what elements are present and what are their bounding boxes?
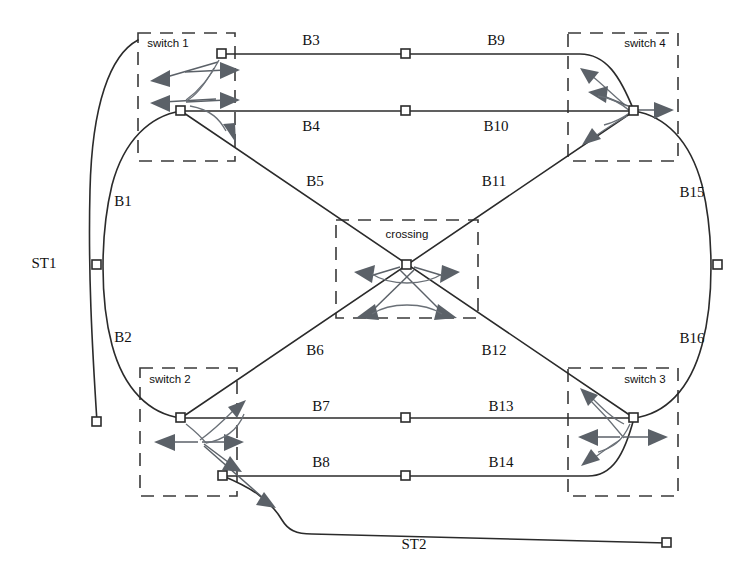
node-b1-b2[interactable]: [92, 260, 101, 269]
route-arrows-switch1: [150, 60, 240, 143]
route-arrow-sw2-down-right-2: [204, 446, 262, 497]
block-label-b7: B7: [312, 398, 330, 414]
region-label-crossing: crossing: [386, 228, 429, 240]
node-b15-b16[interactable]: [713, 260, 722, 269]
route-arrow-head-crossing-up-right: [440, 265, 460, 283]
node-sw3[interactable]: [629, 413, 638, 422]
route-arrow-head-sw3-left: [578, 429, 598, 446]
node-sw2-top[interactable]: [176, 413, 185, 422]
track-layout-canvas: switch 1 switch 4 crossing switch 2 swit…: [0, 0, 741, 581]
node-b4-b10[interactable]: [401, 106, 410, 115]
block-label-b10: B10: [483, 118, 508, 134]
node-sw2-bottom[interactable]: [218, 471, 227, 480]
block-label-b6: B6: [306, 342, 324, 358]
route-arrow-crossing-down-right: [400, 270, 438, 308]
node-b8-b14[interactable]: [401, 471, 410, 480]
block-label-b13: B13: [488, 398, 513, 414]
block-label-b14: B14: [488, 454, 514, 470]
block-label-b5: B5: [306, 173, 324, 189]
track-st1: [89, 40, 138, 422]
track-st2: [223, 476, 667, 543]
block-label-b4: B4: [302, 118, 320, 134]
route-curve-crossing-bottom: [372, 305, 442, 314]
node-st1-end[interactable]: [92, 417, 101, 426]
track-b8-b14: [223, 418, 634, 476]
node-sw4[interactable]: [629, 106, 638, 115]
route-arrow-sw1-lower-diag: [190, 106, 226, 131]
node-b3-b9[interactable]: [401, 49, 410, 58]
route-arrow-head-sw3-up-left: [580, 388, 598, 406]
route-arrow-head-sw1-mid-left: [150, 95, 170, 112]
route-arrow-head-sw4-mid-left: [588, 86, 608, 103]
route-arrow-head-sw1-mid-right: [220, 92, 240, 109]
region-labels: switch 1 switch 4 crossing switch 2 swit…: [147, 37, 666, 385]
node-sw1-bottom[interactable]: [176, 106, 185, 115]
route-arrow-head-sw3-right: [648, 429, 668, 446]
route-arrows-switch3: [578, 388, 668, 466]
route-arrows-crossing: [354, 265, 460, 320]
region-label-switch1: switch 1: [147, 37, 189, 49]
block-label-b8: B8: [312, 454, 330, 470]
route-arrow-head-sw2-right: [224, 434, 244, 451]
route-arrows-switch4: [580, 68, 674, 145]
node-crossing[interactable]: [402, 260, 411, 269]
block-label-b1: B1: [114, 193, 132, 209]
node-st2-end[interactable]: [662, 538, 671, 547]
region-label-switch2: switch 2: [149, 373, 191, 385]
route-arrow-head-sw2-left: [154, 434, 175, 451]
block-label-b12: B12: [481, 342, 506, 358]
route-arrow-sw2-up-right: [200, 410, 234, 440]
route-arrow-head-sw4-right: [654, 102, 674, 119]
track-b15-b16: [634, 111, 711, 418]
block-label-b11: B11: [482, 173, 506, 189]
route-arrow-head-sw1-upper-right: [220, 62, 240, 79]
block-label-st2: ST2: [401, 536, 426, 552]
route-arrow-head-sw1-upper-left: [150, 70, 170, 87]
block-label-b2: B2: [114, 329, 132, 345]
route-curve-sw3-b: [598, 424, 630, 452]
block-label-b3: B3: [302, 32, 320, 48]
track-b3-b9: [222, 54, 634, 111]
railway-track-diagram: switch 1 switch 4 crossing switch 2 swit…: [0, 0, 741, 581]
route-arrow-head-sw4-down-left: [582, 128, 601, 145]
route-curve-sw2-a: [186, 424, 206, 443]
route-arrow-head-crossing-up-left: [354, 265, 375, 283]
route-arrow-sw4-down-left: [594, 116, 627, 137]
block-label-st1: ST1: [31, 255, 56, 271]
route-arrow-crossing-down-left: [375, 270, 414, 308]
node-b7-b13[interactable]: [401, 413, 410, 422]
track-b1-b2: [103, 111, 181, 418]
track-nodes: [92, 49, 722, 547]
route-arrow-head-sw4-up-left: [580, 68, 599, 84]
region-label-switch3: switch 3: [624, 373, 666, 385]
route-arrow-sw3-up-left: [592, 398, 624, 424]
block-label-b9: B9: [487, 32, 505, 48]
block-label-b15: B15: [679, 184, 704, 200]
region-label-switch4: switch 4: [624, 37, 666, 49]
route-arrow-crossing-up-left: [370, 267, 400, 276]
route-arrow-head-sw3-down-left: [581, 449, 600, 466]
node-sw1-top[interactable]: [217, 49, 226, 58]
block-label-b16: B16: [679, 330, 705, 346]
